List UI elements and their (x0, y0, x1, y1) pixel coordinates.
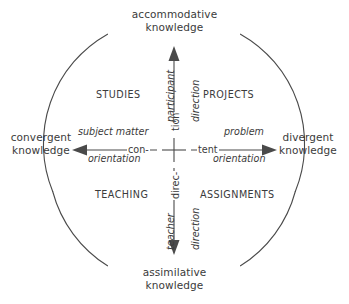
arrow-label-subject-matter: subject matter (78, 126, 148, 137)
pole-bottom-line2: knowledge (0, 279, 349, 292)
arrow-label-problem-orientation: orientation (213, 153, 265, 164)
arc-bottom-left (53, 192, 108, 266)
pole-label-accommodative: accommodative knowledge (0, 8, 349, 34)
pole-top-line1: accommodative (0, 8, 349, 21)
arrow-label-teacher-direction: direction (190, 208, 201, 250)
quadrant-label-studies: STUDIES (96, 89, 141, 100)
axis-word-direction-bottom: direc- (170, 171, 181, 200)
axis-arrow-up-head (169, 46, 180, 61)
quadrant-diagram: accommodative knowledge assimilative kno… (0, 0, 349, 304)
arrow-label-participant-direction: direction (190, 80, 201, 122)
pole-right-line1: divergent (269, 131, 347, 144)
quadrant-label-assignments: ASSIGNMENTS (200, 189, 275, 200)
quadrant-label-projects: PROJECTS (203, 89, 254, 100)
arc-top-right (241, 34, 305, 191)
pole-right-line2: knowledge (269, 144, 347, 157)
pole-bottom-line1: assimilative (0, 266, 349, 279)
arrow-label-subject-matter-orientation: orientation (88, 153, 140, 164)
arrow-label-problem: problem (224, 126, 264, 137)
pole-label-divergent: divergent knowledge (269, 131, 347, 157)
pole-top-line2: knowledge (0, 21, 349, 34)
quadrant-label-teaching: TEACHING (95, 189, 148, 200)
arrow-label-participant: participant (165, 70, 176, 122)
pole-label-assimilative: assimilative knowledge (0, 266, 349, 292)
pole-label-convergent: convergent knowledge (2, 131, 80, 157)
arc-bottom-right (241, 192, 296, 266)
arc-top-left (43, 34, 107, 191)
arrow-label-teacher: teacher (165, 213, 176, 250)
pole-left-line1: convergent (2, 131, 80, 144)
pole-left-line2: knowledge (2, 144, 80, 157)
